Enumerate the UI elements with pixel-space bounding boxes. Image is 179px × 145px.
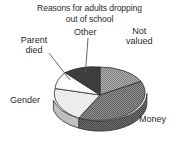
pie-chart-figure: Reasons for adults dropping out of schoo…: [0, 0, 179, 145]
slice-label-money: Money: [139, 114, 166, 124]
slice-label-not-valued: Not valued: [126, 26, 153, 46]
slice-label-other: Other: [74, 27, 97, 37]
leader-line-parent-died: [49, 53, 70, 80]
slice-label-gender: Gender: [10, 95, 40, 105]
slice-label-parent-died-line-1: Parent: [21, 35, 48, 45]
slice-label-not-valued-line-1: Not: [132, 26, 146, 36]
slice-label-parent-died-line-2: died: [25, 45, 42, 55]
slice-label-parent-died: Parent died: [12, 35, 56, 55]
slice-label-not-valued-line-2: valued: [126, 36, 153, 46]
